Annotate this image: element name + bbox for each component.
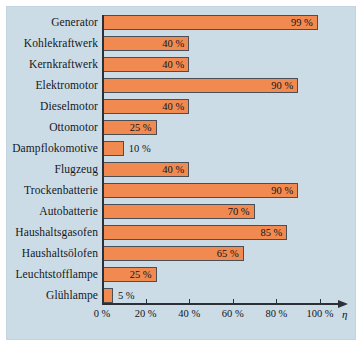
bar-track: 10 % <box>102 141 352 156</box>
bar-track: 25 % <box>102 267 352 282</box>
x-axis-tick <box>233 299 234 303</box>
bar <box>102 141 124 156</box>
bar-track: 90 % <box>102 78 352 93</box>
bar-value-label: 40 % <box>162 100 184 113</box>
bar-row: Kohlekraftwerk40 % <box>6 33 356 54</box>
bar-value-label: 40 % <box>162 37 184 50</box>
bar-value-label: 5 % <box>118 289 135 302</box>
bar-row: Dampflokomotive10 % <box>6 138 356 159</box>
bar-row: Kernkraftwerk40 % <box>6 54 356 75</box>
bar: 40 % <box>102 99 189 114</box>
bar-track: 25 % <box>102 120 352 135</box>
bar-value-label: 85 % <box>260 226 282 239</box>
bar: 40 % <box>102 162 189 177</box>
x-axis-tick-label: 40 % <box>178 308 200 319</box>
bar: 25 % <box>102 267 157 282</box>
category-label: Generator <box>6 12 98 33</box>
category-label: Haushaltsölofen <box>6 243 98 264</box>
bar-value-label: 99 % <box>291 16 313 29</box>
bar-track: 85 % <box>102 225 352 240</box>
x-axis-tick-label: 100 % <box>306 308 333 319</box>
x-axis-tick <box>320 299 321 303</box>
bar: 65 % <box>102 246 244 261</box>
bar-value-label: 25 % <box>130 268 152 281</box>
bar-track: 40 % <box>102 99 352 114</box>
bar: 25 % <box>102 120 157 135</box>
bar-value-label: 40 % <box>162 163 184 176</box>
category-label: Flugzeug <box>6 159 98 180</box>
bar: 40 % <box>102 57 189 72</box>
bar-track: 40 % <box>102 57 352 72</box>
x-axis-tick-label: 80 % <box>265 308 287 319</box>
category-label: Dampflokomotive <box>6 138 98 159</box>
bar: 90 % <box>102 78 298 93</box>
bar: 40 % <box>102 36 189 51</box>
bar-value-label: 10 % <box>129 142 151 155</box>
x-axis-tick-label: 0 % <box>94 308 111 319</box>
x-axis-arrow-icon <box>338 300 348 308</box>
bar-value-label: 70 % <box>228 205 250 218</box>
y-axis-line <box>102 15 104 303</box>
bar-row: Elektromotor90 % <box>6 75 356 96</box>
bar-row: Haushaltsgasofen85 % <box>6 222 356 243</box>
category-label: Glühlampe <box>6 285 98 306</box>
bar-track: 99 % <box>102 15 352 30</box>
bar-track: 90 % <box>102 183 352 198</box>
bar-row: Dieselmotor40 % <box>6 96 356 117</box>
chart-panel: Generator99 %Kohlekraftwerk40 %Kernkraft… <box>6 6 356 340</box>
bar-value-label: 65 % <box>217 247 239 260</box>
x-axis-tick-label: 20 % <box>135 308 157 319</box>
bar-value-label: 25 % <box>130 121 152 134</box>
category-label: Ottomotor <box>6 117 98 138</box>
x-axis-line <box>102 303 338 305</box>
category-label: Trockenbatterie <box>6 180 98 201</box>
bar: 99 % <box>102 15 318 30</box>
category-label: Autobatterie <box>6 201 98 222</box>
bar: 85 % <box>102 225 287 240</box>
x-axis-tick <box>146 299 147 303</box>
bar-row: Autobatterie70 % <box>6 201 356 222</box>
category-label: Kohlekraftwerk <box>6 33 98 54</box>
efficiency-bar-chart-figure: Generator99 %Kohlekraftwerk40 %Kernkraft… <box>0 0 362 346</box>
x-axis-symbol-label: η <box>342 308 347 320</box>
bar-row: Haushaltsölofen65 % <box>6 243 356 264</box>
category-label: Elektromotor <box>6 75 98 96</box>
category-label: Dieselmotor <box>6 96 98 117</box>
bar-track: 70 % <box>102 204 352 219</box>
bar-track: 40 % <box>102 36 352 51</box>
plot-area: Generator99 %Kohlekraftwerk40 %Kernkraft… <box>6 6 356 340</box>
x-axis-tick-label: 60 % <box>222 308 244 319</box>
bar-track: 65 % <box>102 246 352 261</box>
category-label: Kernkraftwerk <box>6 54 98 75</box>
bar: 70 % <box>102 204 255 219</box>
category-label: Leuchtstofflampe <box>6 264 98 285</box>
bar: 90 % <box>102 183 298 198</box>
category-label: Haushaltsgasofen <box>6 222 98 243</box>
bar-row: Trockenbatterie90 % <box>6 180 356 201</box>
bar-value-label: 90 % <box>271 184 293 197</box>
bar-row: Generator99 % <box>6 12 356 33</box>
bar-value-label: 90 % <box>271 79 293 92</box>
bar-value-label: 40 % <box>162 58 184 71</box>
bar-row: Ottomotor25 % <box>6 117 356 138</box>
bar-row: Flugzeug40 % <box>6 159 356 180</box>
bar-track: 40 % <box>102 162 352 177</box>
x-axis-tick <box>189 299 190 303</box>
bar-row: Leuchtstofflampe25 % <box>6 264 356 285</box>
x-axis-tick <box>276 299 277 303</box>
bar-track: 5 % <box>102 288 352 303</box>
